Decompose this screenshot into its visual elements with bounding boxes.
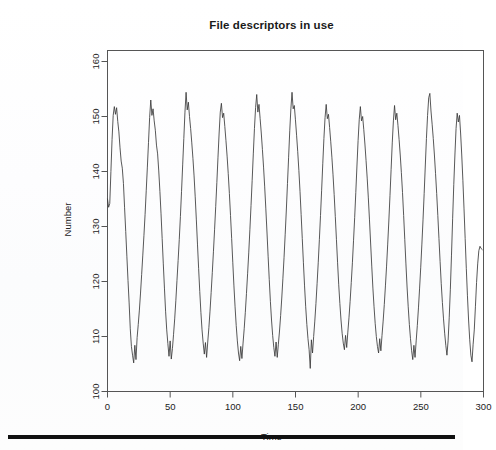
- x-tick-label: 50: [165, 401, 176, 412]
- line-chart-plot[interactable]: 100110120130140150160 050100150200250300: [40, 16, 496, 450]
- data-series-group: [108, 92, 483, 368]
- y-tick-label: 160: [90, 54, 101, 70]
- x-tick-label: 250: [413, 401, 429, 412]
- y-tick-label: 120: [90, 274, 101, 290]
- plot-frame: [108, 51, 484, 392]
- chart-figure: File descriptors in use 1001101201301401…: [40, 16, 496, 450]
- y-tick-label: 110: [90, 329, 101, 344]
- x-tick-label: 150: [288, 401, 304, 412]
- y-tick-label: 130: [90, 219, 101, 235]
- y-tick-label: 100: [90, 384, 101, 400]
- x-tick-label: 200: [350, 401, 366, 412]
- y-tick-label: 140: [90, 164, 101, 180]
- y-axis-label: Number: [62, 175, 73, 265]
- x-tick-label: 300: [476, 401, 492, 412]
- horizontal-rule: [8, 435, 455, 439]
- y-axis-ticks: 100110120130140150160: [90, 54, 107, 400]
- x-tick-label: 100: [225, 401, 241, 412]
- plot-box-border: [108, 51, 484, 392]
- series-line-file-descriptors: [108, 92, 483, 368]
- x-tick-label: 0: [105, 401, 110, 412]
- y-tick-label: 150: [90, 109, 101, 125]
- x-axis-ticks: 050100150200250300: [105, 392, 492, 412]
